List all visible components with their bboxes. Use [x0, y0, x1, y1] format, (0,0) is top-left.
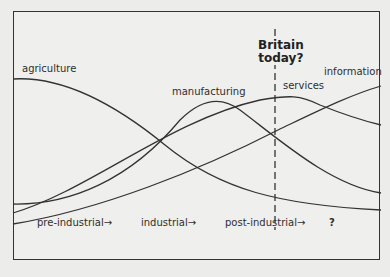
- manufacturing-label: manufacturing: [172, 86, 246, 97]
- britain-today-line2: today?: [258, 52, 304, 65]
- services-curve: [13, 97, 381, 213]
- stage-industrial: industrial→: [141, 217, 196, 228]
- stage-post-industrial: post-industrial→: [225, 217, 305, 228]
- services-label: services: [283, 80, 324, 91]
- britain-today-label: Britain today?: [256, 39, 306, 65]
- agriculture-label: agriculture: [22, 63, 76, 74]
- stage-pre-industrial: pre-industrial→: [37, 217, 112, 228]
- manufacturing-curve: [13, 101, 381, 204]
- stage-unknown: ?: [329, 217, 335, 228]
- curves-plot: [0, 0, 390, 277]
- information-label: information: [324, 66, 382, 77]
